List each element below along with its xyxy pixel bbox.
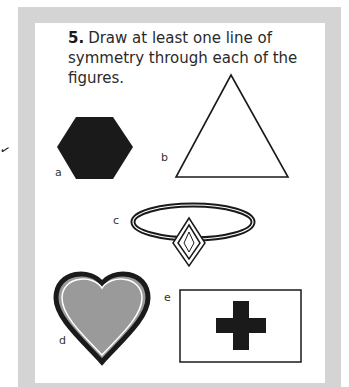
hexagon-figure[interactable] [57,117,133,179]
ring-figure[interactable] [133,205,253,266]
heart-figure[interactable] [56,274,148,362]
figure-label-a: a [55,166,62,179]
triangle-figure[interactable] [176,75,288,177]
figure-label-b: b [161,151,168,164]
figure-label-c: c [113,214,119,227]
rectangle-cross-figure[interactable] [180,290,301,362]
figure-label-e: e [164,291,171,304]
figure-label-d: d [59,334,66,347]
